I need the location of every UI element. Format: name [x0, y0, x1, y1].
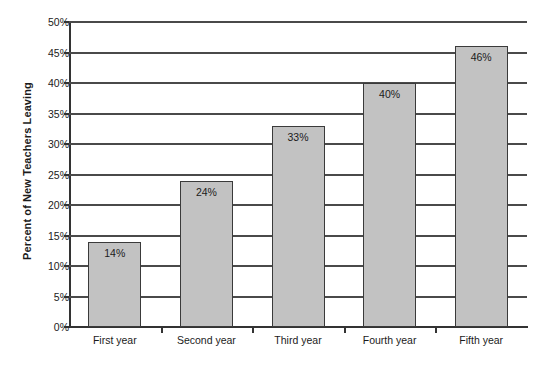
bar-value-label: 24% — [181, 186, 232, 198]
y-axis-tick-label: 20% — [7, 199, 69, 211]
bar: 14% — [88, 242, 141, 327]
y-axis-tick-label: 45% — [7, 47, 69, 59]
y-axis-tick-label: 30% — [7, 138, 69, 150]
y-axis-tick-label: 5% — [7, 291, 69, 303]
y-axis-tick-label: 35% — [7, 108, 69, 120]
y-axis-tick-label: 10% — [7, 260, 69, 272]
x-axis-category-label: Second year — [177, 334, 236, 346]
x-axis-category-label: Third year — [274, 334, 321, 346]
x-axis-tick-mark — [161, 328, 163, 333]
x-axis-category-label: Fourth year — [363, 334, 417, 346]
bar-chart: Percent of New Teachers Leaving 0%5%10%1… — [0, 0, 549, 365]
bar: 40% — [363, 83, 416, 327]
bar-value-label: 40% — [364, 88, 415, 100]
bar: 24% — [180, 181, 233, 327]
gridline — [69, 21, 527, 23]
x-axis-category-label: First year — [93, 334, 137, 346]
plot-area: 14%24%33%40%46% — [69, 22, 527, 327]
bar-value-label: 33% — [273, 131, 324, 143]
x-axis-tick-mark — [252, 328, 254, 333]
x-axis-tick-mark — [435, 328, 437, 333]
y-axis-tick-label: 25% — [7, 169, 69, 181]
bar-value-label: 14% — [89, 247, 140, 259]
y-axis-tick-group: 0%5%10%15%20%25%30%35%40%45%50% — [0, 0, 69, 365]
y-axis-tick-label: 0% — [7, 321, 69, 333]
x-axis-tick-mark — [344, 328, 346, 333]
y-axis-tick-label: 15% — [7, 230, 69, 242]
bar: 33% — [272, 126, 325, 327]
bar: 46% — [455, 46, 508, 327]
y-axis-tick-label: 50% — [7, 16, 69, 28]
y-axis-tick-label: 40% — [7, 77, 69, 89]
x-axis-category-label: Fifth year — [459, 334, 503, 346]
bar-value-label: 46% — [456, 51, 507, 63]
